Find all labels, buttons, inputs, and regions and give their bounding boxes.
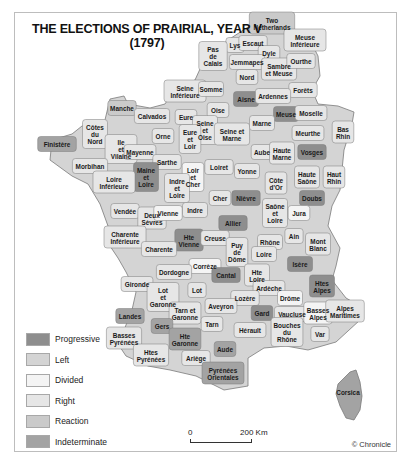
title-line-2: (1797) bbox=[22, 36, 272, 50]
department-label: BasRhin bbox=[336, 126, 350, 140]
department-label: Rhône bbox=[260, 239, 280, 246]
department-label: Ariège bbox=[186, 355, 206, 363]
legend-label: Indeterminate bbox=[55, 437, 107, 447]
department-label: Aveyron bbox=[208, 303, 233, 311]
department-label: Somme bbox=[199, 86, 223, 93]
department-label: Ardennes bbox=[258, 93, 288, 100]
department-label: HautRhin bbox=[327, 171, 342, 185]
department-label: Eure bbox=[179, 114, 194, 121]
department-label: Gard bbox=[255, 310, 270, 317]
department-label: BassesAlpes bbox=[307, 307, 330, 322]
department-label: Côted'Or bbox=[269, 177, 284, 191]
department-label: Sambreet Meuse bbox=[265, 63, 293, 77]
map-title: THE ELECTIONS OF PRAIRIAL, YEAR V (1797) bbox=[22, 22, 272, 50]
department-label: Ain bbox=[289, 233, 299, 240]
department-label: Doubs bbox=[302, 195, 322, 202]
legend-swatch-progressive bbox=[26, 333, 50, 346]
department-label: Isère bbox=[293, 261, 308, 268]
department-label: HauteSaône bbox=[297, 171, 317, 185]
department-label: Mayenne bbox=[126, 149, 154, 157]
department-label: Aisne bbox=[237, 96, 255, 103]
department-label: Morbihan bbox=[76, 163, 105, 170]
department-label: Corsica bbox=[336, 389, 360, 396]
department-label: Vienne bbox=[158, 210, 179, 217]
department-label: Gers bbox=[155, 323, 170, 330]
legend-label: Divided bbox=[55, 375, 83, 385]
department-label: CharenteInférieure bbox=[110, 231, 140, 245]
legend-label: Progressive bbox=[55, 334, 100, 344]
department-label: Manche bbox=[110, 105, 134, 112]
department-label: Ourthe bbox=[291, 58, 312, 65]
department-label: Loire bbox=[256, 251, 272, 258]
department-label: Seine etMarne bbox=[220, 128, 245, 142]
department-label: Aude bbox=[217, 346, 233, 353]
department-label: Dyle bbox=[262, 50, 276, 58]
department-label: Finistère bbox=[44, 141, 71, 148]
department-label: Nord bbox=[240, 74, 255, 81]
department-label: HauteMarne bbox=[273, 147, 292, 161]
department-label: HtesAlpes bbox=[313, 280, 331, 295]
scale-bar-line bbox=[190, 439, 252, 443]
legend-item-right: Right bbox=[26, 391, 107, 412]
department-label: Meurthe bbox=[296, 130, 321, 137]
department-label: Tarn etGaronne bbox=[172, 307, 199, 321]
department-label: Drôme bbox=[280, 295, 301, 302]
legend-item-divided: Divided bbox=[26, 370, 107, 391]
legend-swatch-divided bbox=[26, 374, 50, 387]
legend-item-reaction: Reaction bbox=[26, 411, 107, 432]
department-label: Loiret bbox=[210, 164, 229, 171]
legend-item-indeterminate: Indeterminate bbox=[26, 432, 107, 453]
department-label: Calvados bbox=[138, 113, 167, 120]
department-label: Orne bbox=[156, 133, 171, 140]
department-label: Corrèze bbox=[193, 263, 217, 270]
department-label: Marne bbox=[253, 120, 272, 127]
department-label: Jemmapes bbox=[230, 59, 263, 67]
department-label: Lot bbox=[192, 287, 203, 294]
legend-swatch-right bbox=[26, 394, 50, 407]
department-label: Meuse bbox=[276, 111, 296, 118]
department-label: Ardèche bbox=[256, 285, 282, 292]
department-label: Forêts bbox=[293, 87, 313, 94]
department-label: Lozère bbox=[235, 295, 256, 302]
legend-label: Reaction bbox=[55, 416, 89, 426]
legend-swatch-left bbox=[26, 353, 50, 366]
department-label: Cher bbox=[213, 195, 228, 202]
legend-swatch-reaction bbox=[26, 415, 50, 428]
department-label: Indre bbox=[187, 207, 203, 214]
scale-end-label: 200 Km bbox=[240, 428, 268, 437]
department-label: Landes bbox=[119, 313, 142, 320]
department-label: Nièvre bbox=[236, 195, 256, 202]
legend-item-progressive: Progressive bbox=[26, 329, 107, 350]
legend-label: Right bbox=[55, 396, 75, 406]
department-label: Oise bbox=[211, 107, 225, 114]
department-label: Charente bbox=[145, 246, 173, 253]
department-label: Moselle bbox=[299, 110, 323, 117]
department-label: BassesPyrénées bbox=[110, 332, 139, 347]
department-label: Allier bbox=[225, 220, 241, 227]
department-label: Gironde bbox=[125, 281, 150, 288]
department-label: Jura bbox=[292, 210, 306, 217]
department-label: Vosges bbox=[301, 149, 324, 157]
legend: Progressive Left Divided Right Reaction … bbox=[26, 329, 107, 452]
department-label: Aube bbox=[254, 149, 270, 156]
department-label: Dordogne bbox=[159, 269, 190, 277]
legend-label: Left bbox=[55, 355, 69, 365]
legend-item-left: Left bbox=[26, 350, 107, 371]
copyright-credit: © Chronicle bbox=[352, 440, 391, 449]
department-label: Hérault bbox=[239, 327, 262, 334]
department-label: Sarthe bbox=[157, 159, 177, 166]
department-label: PyrénéesOrientales bbox=[207, 367, 239, 381]
title-line-1: THE ELECTIONS OF PRAIRIAL, YEAR V bbox=[32, 22, 262, 36]
department-label: Vendée bbox=[114, 208, 137, 215]
department-label: MontBlanc bbox=[309, 238, 327, 252]
department-label: Creuse bbox=[204, 235, 226, 242]
department-label: Cantal bbox=[216, 272, 236, 279]
department-label: Tarn bbox=[205, 321, 218, 328]
department-label: Var bbox=[315, 331, 325, 338]
department-label: Vaucluse bbox=[278, 311, 306, 318]
scale-start-label: 0 bbox=[188, 428, 192, 437]
legend-swatch-indeterminate bbox=[26, 435, 50, 448]
department-label: Yonne bbox=[237, 168, 256, 175]
